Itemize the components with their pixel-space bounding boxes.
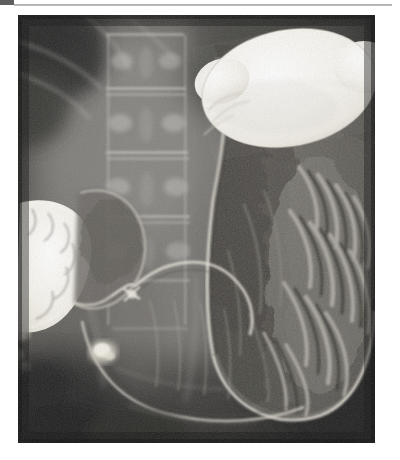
figure-caption bbox=[18, 444, 375, 458]
page-corner-mark bbox=[0, 0, 14, 5]
top-horizontal-rule bbox=[14, 4, 392, 6]
radiograph-canvas bbox=[18, 15, 375, 443]
radiograph-image bbox=[18, 15, 375, 443]
film-grain-overlay bbox=[18, 15, 375, 443]
page-root bbox=[0, 0, 400, 460]
